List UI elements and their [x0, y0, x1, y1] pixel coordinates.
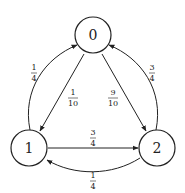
svg-text:1: 1 [31, 63, 36, 72]
svg-text:1: 1 [25, 140, 34, 156]
svg-text:4: 4 [90, 182, 95, 191]
svg-text:4: 4 [90, 139, 95, 148]
svg-text:1: 1 [90, 171, 95, 180]
node-1: 1 [11, 130, 47, 166]
svg-text:10: 10 [108, 99, 118, 108]
svg-text:0: 0 [89, 27, 98, 43]
svg-text:10: 10 [68, 99, 78, 108]
svg-text:9: 9 [110, 88, 115, 97]
edge-2-to-1 [47, 158, 140, 172]
svg-text:3: 3 [149, 63, 154, 72]
svg-text:4: 4 [31, 74, 36, 83]
markov-chain-diagram: 1 4 1 10 9 10 3 4 3 4 1 4 0 1 2 [0, 0, 185, 193]
label-2-to-1: 1 4 [90, 171, 96, 191]
label-1-to-2: 3 4 [90, 128, 96, 148]
edge-2-to-0 [109, 45, 158, 130]
label-2-to-0: 3 4 [149, 63, 155, 83]
node-0: 0 [75, 17, 111, 53]
svg-text:4: 4 [149, 74, 154, 83]
label-1-to-0: 1 4 [31, 63, 37, 83]
svg-text:1: 1 [70, 88, 75, 97]
label-0-to-2: 9 10 [108, 88, 118, 108]
svg-text:3: 3 [90, 128, 95, 137]
label-0-to-1: 1 10 [68, 88, 78, 108]
svg-text:2: 2 [153, 140, 162, 156]
node-2: 2 [139, 130, 175, 166]
